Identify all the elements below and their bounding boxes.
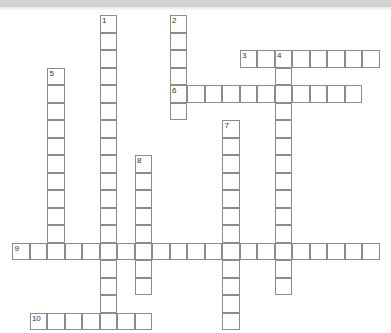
crossword-cell[interactable]	[170, 243, 188, 261]
crossword-cell[interactable]	[310, 50, 328, 68]
crossword-grid[interactable]: 12634578910	[0, 0, 391, 333]
crossword-cell[interactable]	[222, 208, 240, 226]
crossword-cell[interactable]	[47, 208, 65, 226]
crossword-cell[interactable]	[275, 103, 293, 121]
crossword-cell[interactable]	[47, 120, 65, 138]
crossword-cell[interactable]	[47, 313, 65, 331]
crossword-cell[interactable]	[170, 103, 188, 121]
crossword-cell[interactable]	[292, 50, 310, 68]
crossword-cell[interactable]	[100, 50, 118, 68]
crossword-cell[interactable]	[345, 243, 363, 261]
crossword-cell[interactable]	[135, 208, 153, 226]
crossword-cell[interactable]	[292, 243, 310, 261]
crossword-cell[interactable]	[135, 260, 153, 278]
crossword-cell[interactable]	[222, 190, 240, 208]
crossword-cell[interactable]	[275, 225, 293, 243]
crossword-cell[interactable]	[100, 295, 118, 313]
crossword-cell[interactable]	[135, 225, 153, 243]
crossword-cell[interactable]	[222, 138, 240, 156]
crossword-cell[interactable]	[82, 243, 100, 261]
crossword-cell[interactable]	[47, 243, 65, 261]
crossword-cell-numbered-1[interactable]: 1	[100, 15, 118, 33]
crossword-cell[interactable]	[82, 313, 100, 331]
crossword-cell[interactable]	[275, 260, 293, 278]
crossword-cell[interactable]	[362, 50, 380, 68]
crossword-cell[interactable]	[65, 313, 83, 331]
crossword-cell[interactable]	[362, 243, 380, 261]
crossword-cell-numbered-7[interactable]: 7	[222, 120, 240, 138]
crossword-cell[interactable]	[100, 313, 118, 331]
crossword-cell[interactable]	[257, 85, 275, 103]
crossword-cell[interactable]	[275, 173, 293, 191]
crossword-cell[interactable]	[135, 313, 153, 331]
crossword-cell[interactable]	[135, 278, 153, 296]
crossword-cell-numbered-5[interactable]: 5	[47, 68, 65, 86]
crossword-cell[interactable]	[152, 243, 170, 261]
crossword-cell[interactable]	[327, 85, 345, 103]
crossword-cell[interactable]	[100, 155, 118, 173]
crossword-cell[interactable]	[240, 85, 258, 103]
crossword-cell[interactable]	[170, 68, 188, 86]
crossword-cell[interactable]	[100, 173, 118, 191]
crossword-cell-numbered-3[interactable]: 3	[240, 50, 258, 68]
crossword-cell[interactable]	[100, 278, 118, 296]
crossword-cell[interactable]	[100, 225, 118, 243]
crossword-cell[interactable]	[292, 85, 310, 103]
crossword-cell[interactable]	[187, 85, 205, 103]
crossword-cell[interactable]	[187, 243, 205, 261]
crossword-cell[interactable]	[310, 85, 328, 103]
crossword-cell[interactable]	[47, 138, 65, 156]
crossword-cell[interactable]	[327, 243, 345, 261]
crossword-cell[interactable]	[135, 173, 153, 191]
crossword-cell[interactable]	[275, 243, 293, 261]
crossword-cell[interactable]	[100, 85, 118, 103]
crossword-cell[interactable]	[117, 243, 135, 261]
crossword-cell[interactable]	[275, 68, 293, 86]
crossword-cell[interactable]	[345, 50, 363, 68]
crossword-cell[interactable]	[275, 85, 293, 103]
crossword-cell[interactable]	[222, 85, 240, 103]
crossword-cell[interactable]	[47, 155, 65, 173]
crossword-cell[interactable]	[100, 260, 118, 278]
crossword-cell[interactable]	[275, 208, 293, 226]
crossword-cell[interactable]	[222, 295, 240, 313]
crossword-cell[interactable]	[222, 278, 240, 296]
crossword-cell[interactable]	[100, 103, 118, 121]
crossword-cell-numbered-4[interactable]: 4	[275, 50, 293, 68]
crossword-cell[interactable]	[100, 120, 118, 138]
crossword-cell-numbered-10[interactable]: 10	[30, 313, 48, 331]
crossword-cell[interactable]	[222, 313, 240, 331]
crossword-cell-numbered-6[interactable]: 6	[170, 85, 188, 103]
crossword-cell[interactable]	[100, 138, 118, 156]
crossword-cell[interactable]	[345, 85, 363, 103]
crossword-cell[interactable]	[47, 190, 65, 208]
crossword-cell[interactable]	[100, 208, 118, 226]
crossword-cell[interactable]	[65, 243, 83, 261]
crossword-cell[interactable]	[310, 243, 328, 261]
crossword-cell[interactable]	[222, 155, 240, 173]
crossword-cell[interactable]	[275, 155, 293, 173]
crossword-cell[interactable]	[222, 225, 240, 243]
crossword-cell[interactable]	[30, 243, 48, 261]
crossword-cell-numbered-9[interactable]: 9	[12, 243, 30, 261]
crossword-cell[interactable]	[257, 50, 275, 68]
crossword-cell[interactable]	[170, 33, 188, 51]
crossword-cell[interactable]	[100, 33, 118, 51]
crossword-cell[interactable]	[135, 190, 153, 208]
crossword-cell[interactable]	[222, 173, 240, 191]
crossword-cell[interactable]	[222, 260, 240, 278]
crossword-cell[interactable]	[257, 243, 275, 261]
crossword-cell[interactable]	[275, 138, 293, 156]
crossword-cell[interactable]	[100, 190, 118, 208]
crossword-cell[interactable]	[275, 278, 293, 296]
crossword-cell[interactable]	[170, 50, 188, 68]
crossword-cell[interactable]	[117, 313, 135, 331]
crossword-cell[interactable]	[327, 50, 345, 68]
crossword-cell[interactable]	[275, 190, 293, 208]
crossword-cell[interactable]	[135, 243, 153, 261]
crossword-cell[interactable]	[205, 243, 223, 261]
crossword-cell[interactable]	[205, 85, 223, 103]
crossword-cell[interactable]	[47, 85, 65, 103]
crossword-cell-numbered-8[interactable]: 8	[135, 155, 153, 173]
crossword-cell[interactable]	[47, 173, 65, 191]
